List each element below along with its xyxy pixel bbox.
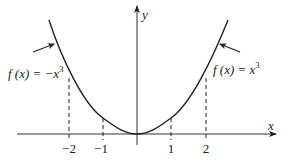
y-axis-label: y bbox=[140, 7, 148, 22]
x-axis-label: x bbox=[267, 118, 274, 133]
tick-label-pos2: 2 bbox=[203, 141, 210, 156]
tick-label-neg2: −2 bbox=[62, 141, 76, 156]
left-annotation-arrow bbox=[33, 44, 54, 52]
left-function-label: f (x) = −x3 bbox=[8, 64, 64, 81]
right-function-label: f (x) = x3 bbox=[213, 60, 260, 77]
curve-abs-x-cubed bbox=[49, 20, 228, 134]
right-function-exponent: 3 bbox=[255, 60, 260, 70]
tick-label-neg1: −1 bbox=[94, 141, 108, 156]
tick-label-pos1: 1 bbox=[168, 141, 175, 156]
right-annotation-arrow bbox=[220, 44, 240, 52]
left-function-text: f (x) = −x bbox=[8, 66, 59, 81]
right-function-text: f (x) = x bbox=[213, 62, 256, 77]
diagram-canvas: y x −2 −1 1 2 f (x) = −x3 f (x) = x3 bbox=[0, 0, 283, 162]
left-function-exponent: 3 bbox=[59, 64, 64, 74]
